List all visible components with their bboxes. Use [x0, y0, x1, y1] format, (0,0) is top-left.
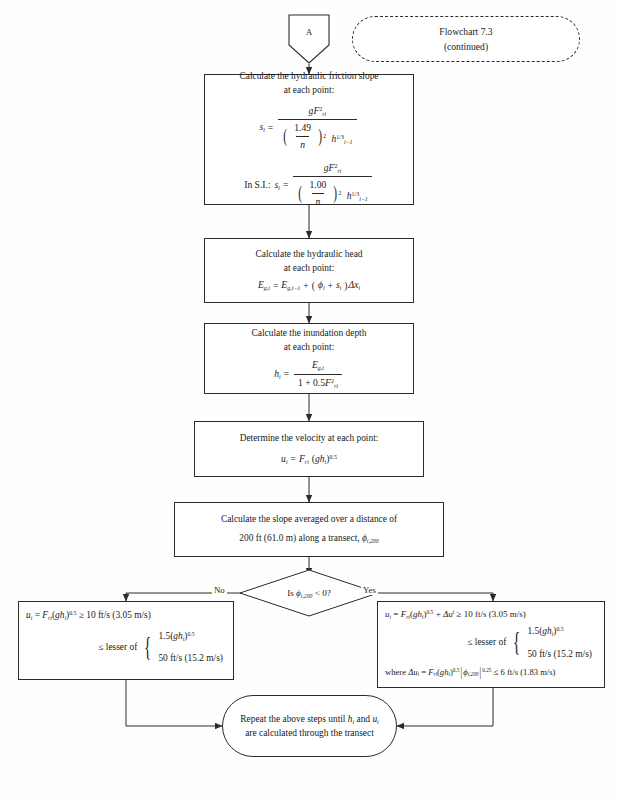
velocity-limits-yes-branch-box: ui = Fri(ghi)0.5 + Δui ≥ 10 ft/s (3.05 m… — [377, 601, 605, 688]
averaged-slope-line2: 200 ft (61.0 m) along a transect, ϕi,200 — [239, 532, 378, 546]
terminator-line2: are calculated through the transect — [245, 726, 374, 740]
decision-text: Is ϕi,200 < 0? — [287, 588, 331, 599]
flowchart-title-box: Flowchart 7.3 (continued) — [352, 16, 580, 62]
hydraulic-head-line1: Calculate the hydraulic head — [256, 248, 363, 262]
pentagon-shape — [287, 13, 331, 65]
yes-branch-where-line: where Δui = Fri(ghi)0.5|ϕi,200|0.25 ≤ 6 … — [378, 666, 604, 679]
friction-slope-equation-si: In S.I.: si = gF2ri ( 1.00 n )2 h1/3i−1 — [244, 161, 374, 209]
yes-branch-option-1: 1.5(ghi)0.5 — [527, 625, 592, 639]
calculate-averaged-slope-box: Calculate the slope averaged over a dist… — [174, 502, 444, 557]
friction-slope-line1: Calculate the hydraulic friction slope — [239, 70, 378, 84]
no-branch-option-1: 1.5(ghi)0.5 — [158, 630, 223, 644]
edge-label-yes: Yes — [361, 585, 378, 595]
no-branch-line1: ui = Fri(ghi)0.5 ≥ 10 ft/s (3.05 m/s) — [19, 609, 233, 623]
terminator-line1: Repeat the above steps until hi and ui — [240, 712, 378, 726]
velocity-limits-no-branch-box: ui = Fri(ghi)0.5 ≥ 10 ft/s (3.05 m/s) ≤ … — [18, 601, 234, 680]
inundation-depth-line2: at each point: — [284, 341, 335, 355]
hydraulic-head-equation: Eg,i = Eg,i−1 + ( ϕi + si ) Δxi — [258, 278, 360, 292]
velocity-equation: ui = Fri (ghi)0.5 — [281, 452, 337, 466]
yes-branch-option-2: 50 ft/s (15.2 m/s) — [527, 648, 592, 662]
inundation-depth-line1: Calculate the inundation depth — [252, 327, 367, 341]
decision-slope-negative: Is ϕi,200 < 0? — [239, 569, 379, 617]
repeat-terminator-box: Repeat the above steps until hi and ui a… — [222, 695, 397, 757]
hydraulic-head-line2: at each point: — [284, 262, 335, 276]
calculate-inundation-depth-box: Calculate the inundation depth at each p… — [204, 323, 414, 394]
yes-branch-lesser-of: ≤ lesser of { 1.5(ghi)0.5 50 ft/s (15.2 … — [467, 625, 592, 661]
flowchart-page: A Flowchart 7.3 (continued) Calculate th… — [0, 0, 618, 802]
friction-slope-line2: at each point: — [284, 84, 335, 98]
calculate-hydraulic-head-box: Calculate the hydraulic head at each poi… — [204, 238, 414, 303]
inundation-depth-equation: hi = Eg,i 1 + 0.5F2ri — [274, 358, 344, 390]
yes-branch-line1: ui = Fri(ghi)0.5 + Δui ≥ 10 ft/s (3.05 m… — [378, 608, 604, 621]
flowchart-title-continued: (continued) — [444, 39, 488, 54]
no-branch-option-2: 50 ft/s (15.2 m/s) — [158, 652, 223, 666]
no-branch-lesser-of: ≤ lesser of { 1.5(ghi)0.5 50 ft/s (15.2 … — [98, 630, 223, 666]
edge-label-no: No — [212, 585, 227, 595]
calculate-friction-slope-box: Calculate the hydraulic friction slope a… — [204, 74, 414, 205]
velocity-line1: Determine the velocity at each point: — [240, 432, 379, 446]
determine-velocity-box: Determine the velocity at each point: ui… — [194, 421, 424, 477]
averaged-slope-line1: Calculate the slope averaged over a dist… — [221, 513, 397, 527]
friction-slope-equation-us: si = gF2ri ( 1.49 n )2 h1/3i−1 — [259, 104, 358, 152]
connector-label: A — [306, 27, 313, 37]
pentagon-connector-icon: A — [287, 13, 331, 65]
flowchart-title: Flowchart 7.3 — [439, 24, 492, 39]
